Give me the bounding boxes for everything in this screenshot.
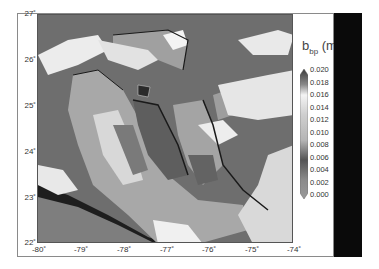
y-tick-label: 27˚ bbox=[18, 9, 36, 18]
colorbar-tick: 0.006 bbox=[310, 153, 329, 162]
x-tick-label: -74˚ bbox=[282, 245, 306, 254]
colorbar-title: bbp (m bbox=[302, 38, 337, 56]
colorbar-tick: 0.012 bbox=[310, 115, 329, 124]
y-tick-label: 25˚ bbox=[18, 101, 36, 110]
x-tick-label: -78˚ bbox=[112, 245, 136, 254]
colorbar-tick: 0.008 bbox=[310, 140, 329, 149]
colorbar-tick: 0.002 bbox=[310, 178, 329, 187]
colorbar-tick: 0.010 bbox=[310, 128, 329, 137]
x-tick-label: -75˚ bbox=[240, 245, 264, 254]
y-tick-label: 24˚ bbox=[18, 147, 36, 156]
y-tick-label: 26˚ bbox=[18, 55, 36, 64]
map-plot-area bbox=[37, 14, 293, 243]
x-tick-label: -76˚ bbox=[197, 245, 221, 254]
y-tick-label: 23˚ bbox=[18, 193, 36, 202]
colorbar-tick: 0.014 bbox=[310, 103, 329, 112]
x-tick-label: -77˚ bbox=[155, 245, 179, 254]
colorbar-tick: 0.020 bbox=[310, 65, 329, 74]
map-raster bbox=[38, 15, 293, 243]
colorbar-tick: 0.004 bbox=[310, 165, 329, 174]
x-tick-label: -80˚ bbox=[27, 245, 51, 254]
colorbar-tick: 0.018 bbox=[310, 78, 329, 87]
x-tick-label: -79˚ bbox=[69, 245, 93, 254]
black-mask-bar bbox=[334, 13, 362, 257]
colorbar-tick: 0.000 bbox=[310, 190, 329, 199]
colorbar-tick: 0.016 bbox=[310, 90, 329, 99]
colorbar bbox=[300, 69, 308, 199]
